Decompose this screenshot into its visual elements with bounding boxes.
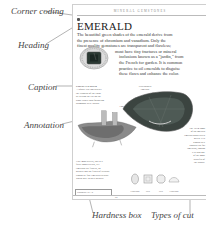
cabochon-cut-icon: [130, 173, 140, 185]
callout-types-of-cut: Types of cut: [151, 210, 194, 220]
caption-line: diamonds were drawn.: [76, 102, 116, 105]
octagon-step-cut-icon: [156, 173, 166, 185]
types-of-cut-row: Cabochon Step Step Cabochon: [129, 171, 181, 191]
footer-rule: [73, 195, 206, 196]
book-page: MINERAL GEMSTONES EMERALD The beautiful …: [72, 4, 206, 200]
running-head: MINERAL GEMSTONES: [73, 9, 206, 13]
cut-cabochon: Cabochon: [129, 171, 141, 192]
cut-label: Cabochon: [168, 190, 180, 192]
callout-corner-coding: Corner coding: [11, 6, 64, 16]
cabochon-side-cut-icon: [168, 173, 180, 185]
cut-step-1: Step: [142, 171, 154, 192]
cut-cabochon-side: Cabochon: [168, 171, 180, 192]
emerald-crystal-image: [73, 109, 143, 149]
callout-hardness-box: Hardness box: [92, 210, 141, 220]
ring-caption: EMERALD RING A square-cut emerald set th…: [76, 85, 116, 105]
page-heading: EMERALD: [77, 20, 132, 32]
header-rule: [77, 15, 206, 16]
cut-label: Cabochon: [129, 190, 141, 192]
pear-description: The 1874 tomb of an emerald emerald glow…: [161, 127, 205, 164]
page-number: 82: [115, 196, 117, 199]
description-line: the stones.: [161, 161, 205, 164]
cut-label: Step: [155, 190, 167, 192]
intro-line: these flaws and enhance the color.: [77, 71, 205, 77]
emerald-ring-image: [79, 46, 109, 70]
cut-step-2: Step: [155, 171, 167, 192]
annotation-text: Like most beryls, this is a fairly good …: [76, 160, 114, 180]
step-cut-icon: [143, 173, 153, 185]
callout-annotation: Annotation: [24, 120, 64, 130]
annotation-line: worth able to their owners.: [76, 177, 114, 180]
cut-label: Step: [142, 190, 154, 192]
callout-caption: Caption: [28, 82, 57, 92]
callout-heading: Heading: [18, 40, 49, 50]
